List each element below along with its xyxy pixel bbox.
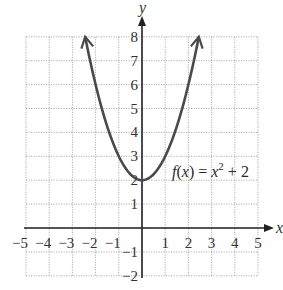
parabola-chart: x y −5−4−3−2−112345 −2−112345678 f(x) = … [0, 0, 283, 290]
y-tick-label: 5 [131, 101, 139, 117]
x-tick-label: −2 [82, 235, 98, 251]
x-tick-label: −4 [35, 235, 51, 251]
y-tick-label: −2 [122, 268, 138, 284]
x-tick-label: 3 [208, 235, 216, 251]
y-axis-arrow-icon [138, 16, 146, 26]
x-axis-arrow-icon [264, 224, 274, 232]
x-tick-label: 2 [185, 235, 193, 251]
y-tick-label: 4 [131, 124, 139, 140]
x-tick-label: −5 [12, 235, 28, 251]
y-axis-label: y [137, 0, 147, 17]
x-tick-label: 1 [161, 235, 169, 251]
x-tick-label: −1 [105, 235, 121, 251]
y-tick-label: 3 [131, 148, 139, 164]
x-axis-label: x [275, 219, 283, 236]
x-tick-label: 5 [254, 235, 262, 251]
y-tick-label: −1 [122, 244, 138, 260]
y-tick-label: 8 [131, 29, 139, 45]
x-tick-label: −3 [58, 235, 74, 251]
y-tick-label: 7 [131, 53, 139, 69]
y-tick-label: 6 [131, 77, 139, 93]
function-label: f(x) = x2 + 2 [172, 160, 249, 181]
x-tick-label: 4 [231, 235, 239, 251]
y-tick-label: 1 [131, 196, 139, 212]
